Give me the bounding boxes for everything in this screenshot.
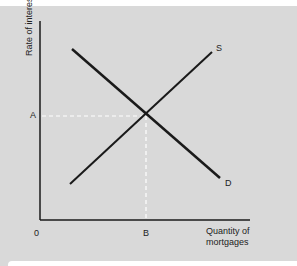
- supply-label: S: [216, 43, 222, 53]
- supply-demand-diagram: [0, 0, 297, 266]
- caption-box: [8, 261, 297, 266]
- x-axis-label-line1: Quantity of: [206, 226, 250, 237]
- demand-label: D: [225, 178, 232, 188]
- x-axis-label: Quantity of mortgages: [206, 226, 250, 248]
- equilibrium-quantity-label: B: [143, 228, 149, 238]
- supply-curve: [70, 52, 212, 184]
- origin-label: 0: [34, 228, 39, 238]
- x-axis-label-line2: mortgages: [206, 237, 250, 248]
- equilibrium-price-label: A: [30, 110, 36, 120]
- y-axis-label: Rate of interest: [24, 0, 34, 56]
